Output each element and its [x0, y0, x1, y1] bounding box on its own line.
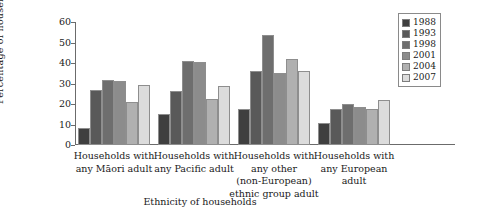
- bar-2007-group-3: [298, 71, 310, 145]
- y-tick-40: 40: [31, 58, 71, 68]
- legend-swatch-icon-1998: [402, 41, 410, 49]
- category-label-line: adult: [279, 175, 429, 188]
- bar-2001-group-4: [354, 107, 366, 145]
- legend-swatch-icon-2007: [402, 74, 410, 82]
- x-axis-title: Ethnicity of households: [0, 196, 400, 207]
- bar-group-1: [78, 22, 150, 145]
- y-tick-30: 30: [31, 79, 71, 89]
- bar-chart: Percentage of households 0102030405060 H…: [0, 0, 479, 217]
- plot-area: [75, 22, 405, 145]
- bar-1993-group-1: [90, 90, 102, 145]
- bar-2004-group-3: [286, 59, 298, 145]
- legend-item-1993: 1993: [402, 28, 436, 39]
- bar-1998-group-3: [262, 35, 274, 145]
- legend-swatch-icon-1993: [402, 30, 410, 38]
- bar-2004-group-2: [206, 99, 218, 145]
- legend-item-2001: 2001: [402, 50, 436, 61]
- legend-label-1998: 1998: [413, 40, 436, 49]
- bar-1993-group-3: [250, 71, 262, 145]
- bar-1988-group-1: [78, 128, 90, 145]
- legend-item-2004: 2004: [402, 61, 436, 72]
- bar-2001-group-2: [194, 62, 206, 145]
- bar-1993-group-4: [330, 109, 342, 145]
- bar-2004-group-1: [126, 102, 138, 145]
- legend-item-2007: 2007: [402, 72, 436, 83]
- category-label-line: any European: [279, 163, 429, 176]
- legend-label-2001: 2001: [413, 51, 436, 60]
- legend-swatch-icon-2001: [402, 52, 410, 60]
- legend-item-1998: 1998: [402, 39, 436, 50]
- legend-label-2007: 2007: [413, 73, 436, 82]
- category-label-line: Households with: [279, 150, 429, 163]
- y-tick-60: 60: [31, 17, 71, 27]
- bar-2001-group-3: [274, 73, 286, 145]
- y-tick-0: 0: [31, 140, 71, 150]
- legend-swatch-icon-2004: [402, 63, 410, 71]
- bar-1993-group-2: [170, 91, 182, 145]
- bar-1988-group-2: [158, 114, 170, 145]
- y-axis-title: Percentage of households: [0, 0, 5, 105]
- legend-swatch-icon-1988: [402, 19, 410, 27]
- bar-2001-group-1: [114, 81, 126, 145]
- legend-item-1988: 1988: [402, 17, 436, 28]
- bar-2007-group-1: [138, 85, 150, 145]
- bar-group-3: [238, 22, 310, 145]
- bar-2007-group-2: [218, 86, 230, 145]
- bar-group-4: [318, 22, 390, 145]
- bar-2007-group-4: [378, 100, 390, 145]
- bar-group-2: [158, 22, 230, 145]
- bar-1998-group-4: [342, 104, 354, 145]
- bar-1998-group-1: [102, 80, 114, 145]
- bar-2004-group-4: [366, 109, 378, 145]
- legend-label-1988: 1988: [413, 18, 436, 27]
- y-tick-10: 10: [31, 120, 71, 130]
- bar-1988-group-3: [238, 109, 250, 145]
- y-tick-50: 50: [31, 38, 71, 48]
- y-tick-mark-0: [71, 145, 75, 146]
- category-label-4: Households withany Europeanadult: [279, 150, 429, 188]
- legend-label-2004: 2004: [413, 62, 436, 71]
- legend: 198819931998200120042007: [398, 13, 441, 87]
- bar-1998-group-2: [182, 61, 194, 145]
- bar-1988-group-4: [318, 123, 330, 145]
- legend-label-1993: 1993: [413, 29, 436, 38]
- y-tick-20: 20: [31, 99, 71, 109]
